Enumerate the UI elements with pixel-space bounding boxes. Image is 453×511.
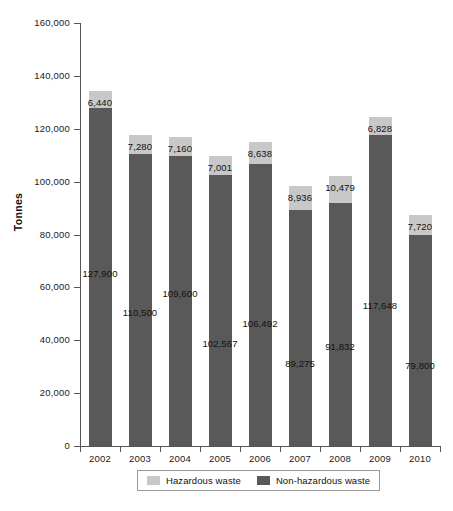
waste-tonnes-stacked-bar-chart: Tonnes 020,00040,00060,00080,000100,0001…: [0, 0, 453, 511]
non-hazardous-value-label: 102,567: [191, 338, 250, 349]
x-axis-tick: [80, 446, 81, 452]
y-axis-tick: [74, 182, 80, 183]
hazardous-value-label: 7,720: [391, 221, 450, 232]
y-axis-tick: [74, 76, 80, 77]
non-hazardous-value-label: 89,275: [271, 358, 330, 369]
legend-swatch: [147, 476, 160, 485]
x-axis-line: [80, 446, 440, 447]
legend-item: Non-hazardous waste: [257, 475, 370, 486]
x-axis-category-label: 2007: [280, 453, 320, 464]
x-axis-category-label: 2003: [120, 453, 160, 464]
y-axis-tick: [74, 393, 80, 394]
x-axis-category-label: 2010: [400, 453, 440, 464]
bar-group: [89, 23, 112, 446]
y-axis-tick-label: 80,000: [2, 229, 70, 240]
y-axis-label-slot: 40,000: [0, 340, 70, 341]
bar-group: [129, 23, 152, 446]
y-axis-tick-label: 60,000: [2, 281, 70, 292]
hazardous-value-label: 8,936: [271, 192, 330, 203]
y-axis-tick: [74, 129, 80, 130]
hazardous-value-label: 6,440: [71, 97, 130, 108]
bar-group: [409, 23, 432, 446]
bar-segment-non-hazardous: [129, 154, 152, 446]
legend-label: Hazardous waste: [166, 475, 241, 486]
bar-segment-non-hazardous: [289, 210, 312, 446]
y-axis-tick: [74, 340, 80, 341]
non-hazardous-value-label: 110,500: [111, 307, 170, 318]
hazardous-value-label: 10,479: [311, 182, 370, 193]
y-axis-line: [80, 23, 81, 446]
x-axis-tick: [160, 446, 161, 452]
y-axis-label-slot: 60,000: [0, 287, 70, 288]
x-axis-tick: [200, 446, 201, 452]
y-axis-label-slot: 160,000: [0, 23, 70, 24]
y-axis-tick: [74, 23, 80, 24]
x-axis-category-label: 2006: [240, 453, 280, 464]
y-axis-label-slot: 120,000: [0, 129, 70, 130]
bar-group: [249, 23, 272, 446]
x-axis-tick: [400, 446, 401, 452]
bar-group: [209, 23, 232, 446]
y-axis-tick-label: 140,000: [2, 70, 70, 81]
x-axis-category-label: 2004: [160, 453, 200, 464]
hazardous-value-label: 6,828: [351, 123, 410, 134]
legend-swatch: [257, 476, 270, 485]
non-hazardous-value-label: 127,900: [71, 268, 130, 279]
bar-segment-non-hazardous: [369, 135, 392, 446]
y-axis-label-slot: 0: [0, 446, 70, 447]
hazardous-value-label: 7,160: [151, 143, 210, 154]
y-axis-tick-label: 160,000: [2, 17, 70, 28]
legend-item: Hazardous waste: [147, 475, 241, 486]
x-axis-tick: [120, 446, 121, 452]
bar-group: [169, 23, 192, 446]
bar-segment-non-hazardous: [329, 203, 352, 446]
x-axis-category-label: 2005: [200, 453, 240, 464]
x-axis-category-label: 2009: [360, 453, 400, 464]
y-axis-label-slot: 140,000: [0, 76, 70, 77]
non-hazardous-value-label: 106,492: [231, 318, 290, 329]
bar-segment-non-hazardous: [249, 164, 272, 446]
legend-label: Non-hazardous waste: [276, 475, 370, 486]
y-axis-label-slot: 20,000: [0, 393, 70, 394]
x-axis-tick: [360, 446, 361, 452]
bar-segment-non-hazardous: [409, 235, 432, 446]
bar-group: [369, 23, 392, 446]
bar-group: [329, 23, 352, 446]
bar-group: [289, 23, 312, 446]
x-axis-tick: [280, 446, 281, 452]
chart-legend: Hazardous wasteNon-hazardous waste: [137, 470, 380, 491]
hazardous-value-label: 7,001: [191, 162, 250, 173]
y-axis-tick-label: 20,000: [2, 387, 70, 398]
non-hazardous-value-label: 117,648: [351, 300, 410, 311]
y-axis-label-slot: 80,000: [0, 235, 70, 236]
y-axis-tick: [74, 235, 80, 236]
bar-segment-non-hazardous: [209, 175, 232, 446]
x-axis-tick: [440, 446, 441, 452]
bar-segment-non-hazardous: [169, 156, 192, 446]
x-axis-tick: [240, 446, 241, 452]
y-axis-label-slot: 100,000: [0, 182, 70, 183]
hazardous-value-label: 8,638: [231, 148, 290, 159]
x-axis-category-label: 2002: [80, 453, 120, 464]
y-axis-tick: [74, 287, 80, 288]
non-hazardous-value-label: 91,832: [311, 341, 370, 352]
non-hazardous-value-label: 79,800: [391, 360, 450, 371]
y-axis-tick-label: 100,000: [2, 176, 70, 187]
x-axis-category-label: 2008: [320, 453, 360, 464]
non-hazardous-value-label: 109,600: [151, 288, 210, 299]
y-axis-tick-label: 120,000: [2, 123, 70, 134]
x-axis-tick: [320, 446, 321, 452]
y-axis-tick-label: 40,000: [2, 334, 70, 345]
y-axis-tick-label: 0: [2, 440, 70, 451]
